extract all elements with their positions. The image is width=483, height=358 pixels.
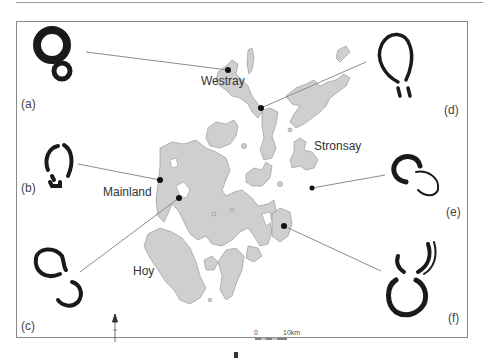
outline-d [379,34,411,96]
label-hoy: Hoy [133,265,154,277]
island-shapinsay [246,162,272,186]
island-eday [260,108,278,160]
island-south-ronaldsay [218,248,244,300]
orkney-map [0,0,483,358]
scale-end-label: 10km [283,329,300,336]
outline-a [37,30,70,79]
panel-label-a: (a) [21,98,36,110]
panel-label-c: (c) [21,320,35,332]
island-flotta [204,256,218,270]
outline-f [389,242,436,315]
label-stronsay: Stronsay [314,140,361,152]
outline-b [46,145,71,186]
page-mark [234,352,238,358]
scale-start-label: 0 [254,329,258,336]
north-arrow [113,314,118,342]
panel-label-e: (e) [446,206,461,218]
island-sanday [286,74,350,128]
label-mainland: Mainland [103,186,152,198]
panel-label-b: (b) [21,182,36,194]
label-westray: Westray [201,75,245,87]
panel-label-d: (d) [444,104,459,116]
island-rousay [206,120,238,148]
island-north-ronaldsay [336,46,350,62]
island-westray [216,60,262,118]
panel-label-f: (f) [448,312,459,324]
island-mainland [156,140,276,246]
island-papa-westray [247,48,254,74]
outline-e [394,157,438,196]
islands [144,46,350,304]
island-burray [246,246,262,262]
outline-c [36,249,81,305]
